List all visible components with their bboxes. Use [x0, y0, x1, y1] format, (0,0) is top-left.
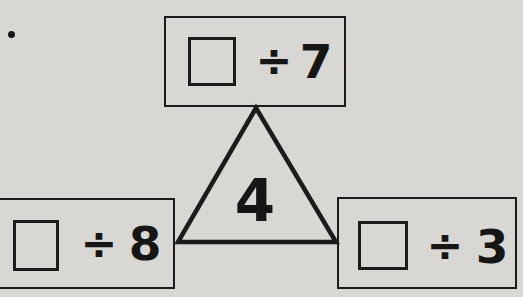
answer-box-top: [188, 37, 236, 86]
divisor-bottom-left: 8: [129, 220, 162, 267]
triangle-center-number: 4: [235, 172, 275, 230]
worksheet-diagram: ÷ 7 ÷ 8 ÷ 3 4: [0, 0, 523, 297]
divide-sign-bottom-right: ÷: [427, 224, 464, 268]
list-marker-dot: [8, 31, 15, 38]
divisor-top: 7: [300, 38, 333, 85]
divide-sign-bottom-left: ÷: [81, 222, 118, 266]
answer-box-bottom-right: [358, 221, 408, 270]
answer-box-bottom-left: [13, 220, 59, 271]
divisor-bottom-right: 3: [476, 223, 509, 270]
division-box-bottom-right: ÷ 3: [337, 197, 517, 289]
divide-sign-top: ÷: [256, 39, 293, 83]
division-box-top: ÷ 7: [164, 16, 346, 107]
division-box-bottom-left: ÷ 8: [0, 198, 175, 289]
